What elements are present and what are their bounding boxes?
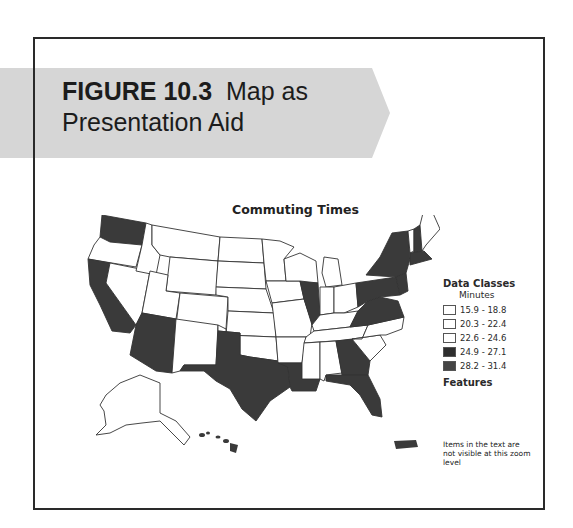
state-ohio <box>334 283 358 313</box>
state-michigan <box>322 257 342 287</box>
legend-class: 20.3 - 22.4 <box>443 317 515 331</box>
legend-swatch <box>443 333 456 343</box>
legend-class: 28.2 - 31.4 <box>443 359 515 373</box>
legend-class: 15.9 - 18.8 <box>443 303 515 317</box>
state-south-dakota <box>216 261 266 289</box>
legend-swatch <box>443 347 456 357</box>
us-choropleth-map <box>80 215 440 455</box>
legend-subtitle: Minutes <box>459 290 515 300</box>
legend-note: Items in the text are not visible at thi… <box>443 440 533 467</box>
map-legend: Data Classes Minutes 15.9 - 18.8 20.3 - … <box>443 278 515 388</box>
state-arkansas <box>276 337 306 363</box>
state-florida <box>326 375 382 417</box>
state-maine <box>420 215 440 251</box>
legend-swatch <box>443 305 456 315</box>
legend-range: 20.3 - 22.4 <box>460 319 506 329</box>
legend-class: 24.9 - 27.1 <box>443 345 515 359</box>
legend-swatch <box>443 319 456 329</box>
state-massachusetts <box>410 251 432 265</box>
legend-range: 15.9 - 18.8 <box>460 305 506 315</box>
legend-class: 22.6 - 24.6 <box>443 331 515 345</box>
state-wisconsin <box>284 253 318 283</box>
legend-range: 28.2 - 31.4 <box>460 361 506 371</box>
state-hawaii <box>199 432 238 454</box>
state-mississippi <box>302 342 320 379</box>
legend-range: 22.6 - 24.6 <box>460 333 506 343</box>
legend-title: Data Classes <box>443 278 515 289</box>
state-indiana <box>320 287 334 315</box>
state-wyoming <box>166 257 218 295</box>
state-montana <box>152 225 220 261</box>
legend-range: 24.9 - 27.1 <box>460 347 506 357</box>
state-north-dakota <box>218 237 264 263</box>
state-alaska <box>96 375 190 445</box>
legend-features-label: Features <box>443 377 515 388</box>
territory-puerto-rico <box>394 440 418 449</box>
legend-swatch <box>443 361 456 371</box>
state-new-york <box>366 231 410 277</box>
